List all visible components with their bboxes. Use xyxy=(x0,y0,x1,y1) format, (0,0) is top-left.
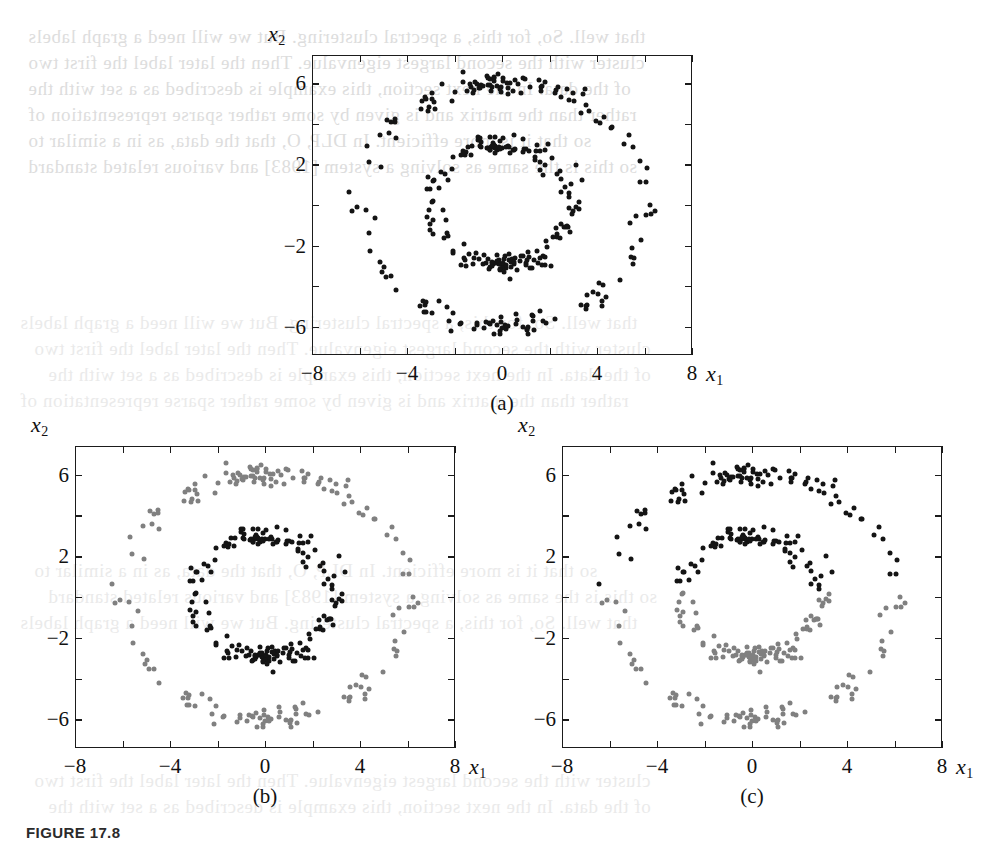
scatter-point xyxy=(738,474,743,479)
scatter-point xyxy=(496,71,501,76)
scatter-point xyxy=(481,253,486,258)
scatter-point xyxy=(710,471,715,476)
x-tick-label: −4 xyxy=(396,361,418,386)
scatter-point xyxy=(850,696,855,701)
x-tick xyxy=(360,446,361,453)
scatter-point xyxy=(130,623,135,628)
y-tick-label: −2 xyxy=(266,233,306,258)
scatter-point xyxy=(300,468,305,473)
scatter-point xyxy=(254,466,259,471)
scatter-point xyxy=(410,595,415,600)
scatter-point xyxy=(754,536,759,541)
scatter-point xyxy=(756,717,761,722)
scatter-point xyxy=(860,516,865,521)
scatter-point xyxy=(233,654,238,659)
y-tick xyxy=(562,597,569,598)
scatter-point xyxy=(821,482,826,487)
scatter-point xyxy=(511,89,516,94)
scatter-point xyxy=(359,685,364,690)
scatter-point xyxy=(349,500,354,505)
x-tick xyxy=(692,348,693,355)
y-tick xyxy=(75,679,82,680)
scatter-point xyxy=(391,647,396,652)
y-axis-title-text: x xyxy=(268,21,278,46)
scatter-point xyxy=(500,136,505,141)
x-tick xyxy=(705,446,706,453)
scatter-point xyxy=(152,666,157,671)
scatter-point xyxy=(508,150,513,155)
x-tick xyxy=(502,348,503,355)
scatter-point xyxy=(543,163,548,168)
scatter-point xyxy=(362,691,367,696)
scatter-point xyxy=(204,600,209,605)
scatter-point xyxy=(482,325,487,330)
scatter-point xyxy=(791,565,796,570)
scatter-point xyxy=(573,162,578,167)
scatter-point xyxy=(546,142,551,147)
scatter-point xyxy=(727,477,732,482)
scatter-point xyxy=(245,718,250,723)
bleed-text-line: that well. So, for this, a spectral clus… xyxy=(28,26,645,48)
scatter-point xyxy=(443,172,448,177)
scatter-point xyxy=(584,102,589,107)
scatter-point xyxy=(145,657,150,662)
scatter-point xyxy=(367,231,372,236)
scatter-point xyxy=(201,562,206,567)
x-tick xyxy=(550,55,551,62)
scatter-point xyxy=(633,214,638,219)
scatter-point xyxy=(524,263,529,268)
scatter-point xyxy=(425,215,430,220)
scatter-point xyxy=(694,610,699,615)
scatter-point xyxy=(537,149,542,154)
scatter-point xyxy=(469,144,474,149)
scatter-point xyxy=(321,628,326,633)
scatter-point xyxy=(250,539,255,544)
scatter-point xyxy=(112,601,117,606)
scatter-point xyxy=(526,249,531,254)
scatter-point xyxy=(820,600,825,605)
scatter-point xyxy=(643,527,648,532)
scatter-point xyxy=(330,586,335,591)
scatter-point xyxy=(755,476,760,481)
scatter-point xyxy=(212,558,217,563)
scatter-point xyxy=(762,652,767,657)
y-tick xyxy=(312,124,319,125)
scatter-point xyxy=(778,658,783,663)
scatter-point xyxy=(331,573,336,578)
scatter-point xyxy=(514,267,519,272)
scatter-point xyxy=(285,467,290,472)
scatter-point xyxy=(514,322,519,327)
scatter-point xyxy=(491,318,496,323)
x-axis-title: x1 xyxy=(469,754,486,782)
y-tick-label: 2 xyxy=(266,152,306,177)
y-tick xyxy=(562,679,569,680)
scatter-point xyxy=(602,114,607,119)
scatter-point xyxy=(209,570,214,575)
scatter-point xyxy=(287,655,292,660)
x-tick xyxy=(895,446,896,453)
scatter-point xyxy=(577,207,582,212)
x-tick xyxy=(705,741,706,748)
scatter-point xyxy=(518,259,523,264)
x-tick-label: 0 xyxy=(260,754,271,779)
scatter-point xyxy=(438,170,443,175)
x-tick xyxy=(800,741,801,748)
scatter-point xyxy=(109,581,114,586)
scatter-point xyxy=(724,642,729,647)
scatter-point xyxy=(565,86,570,91)
scatter-point xyxy=(831,483,836,488)
scatter-point xyxy=(193,703,198,708)
scatter-point xyxy=(748,707,753,712)
scatter-point xyxy=(428,228,433,233)
scatter-point xyxy=(142,556,147,561)
scatter-point xyxy=(259,463,264,468)
y-tick-label: 6 xyxy=(266,71,306,96)
scatter-point xyxy=(818,622,823,627)
scatter-point xyxy=(340,591,345,596)
scatter-point xyxy=(205,627,210,632)
scatter-point xyxy=(282,646,287,651)
scatter-point xyxy=(878,612,883,617)
scatter-point xyxy=(763,469,768,474)
scatter-point xyxy=(749,481,754,486)
scatter-point xyxy=(130,640,135,645)
